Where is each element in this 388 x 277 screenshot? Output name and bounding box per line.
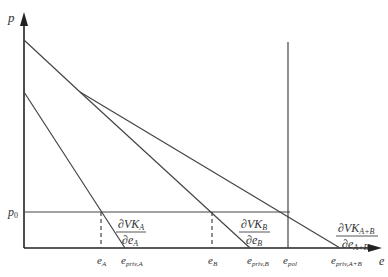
curve-B <box>80 92 250 248</box>
svg-text:∂eA: ∂eA <box>122 233 138 248</box>
svg-text:∂VKB: ∂VKB <box>241 217 267 232</box>
curve-common-segment <box>24 40 80 92</box>
svg-text:∂eA+B: ∂eA+B <box>342 237 369 252</box>
y-axis-arrow-icon <box>20 12 28 26</box>
curve-A <box>24 92 125 248</box>
tick-e-priv-A-plus-B: epriv,A+B <box>331 254 362 268</box>
x-axis-arrow-icon <box>368 244 382 252</box>
x-axis-label: e <box>379 254 385 268</box>
tick-e-A: eA <box>97 254 107 268</box>
diagram: p e p0 ∂VKA ∂eA ∂VKB ∂eB ∂VKA+B ∂eA+B eA… <box>0 0 388 277</box>
label-dVK-A: ∂VKA ∂eA <box>116 217 146 248</box>
tick-e-priv-A: epriv,A <box>121 254 143 268</box>
tick-e-B: eB <box>208 254 218 268</box>
tick-e-pol: epol <box>283 254 297 268</box>
label-dVK-B: ∂VKB ∂eB <box>239 217 270 248</box>
p0-label: p0 <box>7 205 18 220</box>
svg-text:∂VKA+B: ∂VKA+B <box>338 221 375 236</box>
y-axis-label: p <box>7 10 15 25</box>
tick-e-priv-B: epriv,B <box>247 254 269 268</box>
svg-text:∂VKA: ∂VKA <box>118 217 144 232</box>
svg-text:∂eB: ∂eB <box>246 233 262 248</box>
